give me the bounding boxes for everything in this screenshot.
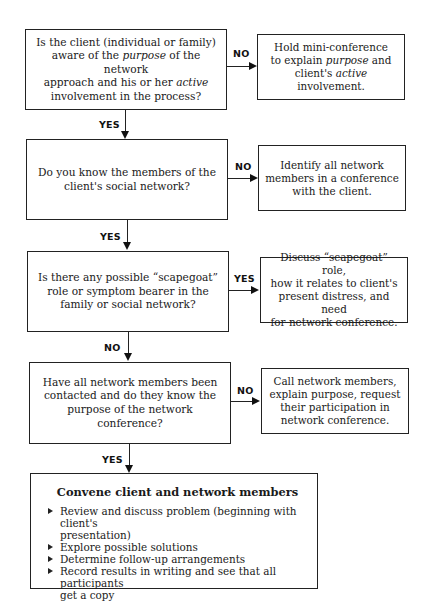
text-line: presentation) xyxy=(60,529,131,541)
connector-line xyxy=(228,178,250,179)
decision-box-scapegoat: Is there any possible “scapegoat” role o… xyxy=(27,251,229,332)
arrow-down-icon xyxy=(124,353,132,361)
text-line: network conference. xyxy=(281,414,390,426)
text-line: get a copy xyxy=(60,589,114,601)
text-line: present distress, and need xyxy=(279,290,390,315)
list-item: Determine follow-up arrangements xyxy=(60,553,307,565)
connector-line xyxy=(229,290,251,291)
action-text: Discuss “scapegoat” role, how it relates… xyxy=(267,251,401,329)
decision-text: Is there any possible “scapegoat” role o… xyxy=(38,271,218,312)
arrow-right-icon xyxy=(249,62,257,70)
arrow-right-icon xyxy=(252,397,260,405)
convene-list: Review and discuss problem (beginning wi… xyxy=(48,505,307,601)
text-emphasis: purpose xyxy=(326,54,369,66)
decision-box-client-awareness: Is the client (individual or family) awa… xyxy=(25,29,227,110)
convene-title: Convene client and network members xyxy=(48,486,307,498)
text-line: Is there any possible “scapegoat” xyxy=(38,271,218,283)
list-item: Review and discuss problem (beginning wi… xyxy=(60,505,307,541)
bullet-triangle-icon xyxy=(48,556,53,562)
branch-label-yes: YES xyxy=(102,454,123,465)
text-line: role or symptom bearer in the xyxy=(47,285,209,297)
list-item: Explore possible solutions xyxy=(60,541,307,553)
action-text: Call network members, explain purpose, r… xyxy=(270,375,401,427)
text-line: Call network members, xyxy=(273,375,396,387)
text-line: Hold mini-conference xyxy=(274,41,388,53)
action-text: Identify all network members in a confer… xyxy=(265,159,399,198)
decision-text: Is the client (individual or family) awa… xyxy=(34,36,218,104)
text-line: and xyxy=(369,54,392,66)
branch-label-no: NO xyxy=(104,342,120,353)
list-item: Record results in writing and see that a… xyxy=(60,565,307,601)
bullet-triangle-icon xyxy=(48,508,53,514)
text-line: Do you know the members of the xyxy=(38,166,216,178)
text-line: explain purpose, request xyxy=(270,388,401,400)
text-line: with the client. xyxy=(292,185,372,197)
decision-text: Have all network members been contacted … xyxy=(38,376,222,430)
text-line: Determine follow-up arrangements xyxy=(60,553,245,565)
text-line: for network conference. xyxy=(271,316,398,328)
convene-box: Convene client and network members Revie… xyxy=(30,473,318,589)
arrow-right-icon xyxy=(251,286,259,294)
action-box-call-members: Call network members, explain purpose, r… xyxy=(261,368,409,434)
text-line: involvement. xyxy=(297,80,365,92)
bullet-triangle-icon xyxy=(48,568,53,574)
text-line: aware of the xyxy=(52,49,123,61)
connector-line xyxy=(231,401,252,402)
action-text: Hold mini-conference to explain purpose … xyxy=(264,41,398,93)
text-line: Explore possible solutions xyxy=(60,541,198,553)
text-emphasis: purpose xyxy=(122,49,166,61)
decision-text: Do you know the members of the client's … xyxy=(38,166,216,193)
text-line: Record results in writing and see that a… xyxy=(60,565,276,589)
text-line: members in a conference xyxy=(265,172,399,184)
action-box-discuss-scapegoat: Discuss “scapegoat” role, how it relates… xyxy=(260,257,408,323)
connector-line xyxy=(125,110,126,132)
bullet-triangle-icon xyxy=(48,544,53,550)
connector-line xyxy=(128,332,129,354)
arrow-down-icon xyxy=(123,242,131,250)
text-line: approach and his or her xyxy=(44,76,176,88)
arrow-down-icon xyxy=(125,465,133,473)
text-line: their participation in xyxy=(280,401,390,413)
connector-line xyxy=(129,444,130,466)
branch-label-yes: YES xyxy=(100,231,121,242)
text-line: client's xyxy=(295,67,336,79)
text-line: Review and discuss problem (beginning wi… xyxy=(60,505,297,529)
text-emphasis: active xyxy=(336,67,368,79)
text-line: purpose of the network conference? xyxy=(67,403,193,429)
branch-label-yes: YES xyxy=(234,273,255,284)
text-line: to explain xyxy=(271,54,326,66)
text-line: Discuss “scapegoat” role, xyxy=(280,251,388,276)
branch-label-no: NO xyxy=(235,161,251,172)
action-box-identify-members: Identify all network members in a confer… xyxy=(258,145,406,211)
decision-box-contacted: Have all network members been contacted … xyxy=(29,362,231,444)
text-line: Have all network members been xyxy=(43,376,218,388)
branch-label-no: NO xyxy=(237,385,253,396)
text-line: Is the client (individual or family) xyxy=(36,36,216,48)
decision-box-know-members: Do you know the members of the client's … xyxy=(26,139,228,220)
connector-line xyxy=(127,220,128,243)
arrow-down-icon xyxy=(121,131,129,139)
branch-label-no: NO xyxy=(233,48,249,59)
text-emphasis: active xyxy=(176,76,208,88)
arrow-right-icon xyxy=(250,174,258,182)
connector-line xyxy=(227,66,249,67)
action-box-mini-conference: Hold mini-conference to explain purpose … xyxy=(257,34,405,100)
branch-label-yes: YES xyxy=(99,119,120,130)
text-line: how it relates to client's xyxy=(271,277,398,289)
text-line: involvement in the process? xyxy=(51,90,201,102)
text-line: family or social network? xyxy=(60,298,195,310)
text-line: client's social network? xyxy=(64,180,190,192)
text-line: contacted and do they know the xyxy=(44,389,216,401)
text-line: Identify all network xyxy=(280,159,384,171)
